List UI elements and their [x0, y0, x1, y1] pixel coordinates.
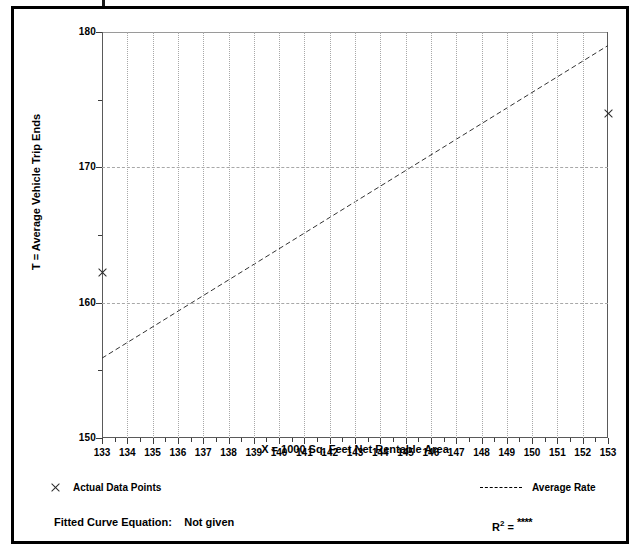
gridline-vertical: [254, 32, 255, 438]
x-axis-minor-tick: [140, 438, 141, 442]
y-axis-minor-tick: [98, 100, 102, 101]
x-axis-minor-tick: [266, 438, 267, 442]
legend-item-average-rate: Average Rate: [480, 482, 596, 493]
y-axis-minor-tick: [98, 370, 102, 371]
y-axis-tick: [96, 438, 102, 439]
x-axis-minor-tick: [595, 438, 596, 442]
gridline-vertical: [330, 32, 331, 438]
y-axis-minor-tick: [98, 235, 102, 236]
cross-marker-icon: [50, 482, 61, 493]
x-axis-minor-tick: [444, 438, 445, 442]
x-axis-minor-tick: [519, 438, 520, 442]
gridline-horizontal: [102, 303, 608, 304]
legend: Actual Data Points Average Rate: [14, 478, 626, 510]
r-squared-value: ****: [517, 516, 532, 528]
gridline-vertical: [127, 32, 128, 438]
x-axis-minor-tick: [165, 438, 166, 442]
data-point-marker: [603, 108, 614, 119]
gridline-vertical: [279, 32, 280, 438]
gridline-vertical: [431, 32, 432, 438]
plot-area: 1331341351361371381391401411421431441451…: [102, 32, 608, 438]
fitted-curve-equation: Fitted Curve Equation: Not given: [54, 516, 234, 528]
dashed-line-icon: [480, 487, 522, 488]
x-axis-minor-tick: [115, 438, 116, 442]
x-axis-minor-tick: [191, 438, 192, 442]
y-axis-tick-label: 170: [56, 162, 96, 172]
gridline-vertical: [229, 32, 230, 438]
r-squared-equals: =: [504, 521, 517, 533]
fitted-curve-equation-label: Fitted Curve Equation:: [54, 516, 172, 528]
footer-row: Fitted Curve Equation: Not given R2 = **…: [14, 514, 626, 540]
gridline-vertical: [203, 32, 204, 438]
legend-item-actual-data-points: Actual Data Points: [50, 482, 161, 493]
x-axis-tick: [608, 438, 609, 444]
x-axis-minor-tick: [469, 438, 470, 442]
x-axis-minor-tick: [241, 438, 242, 442]
gridline-horizontal: [102, 167, 608, 168]
gridline-vertical: [557, 32, 558, 438]
x-axis-minor-tick: [317, 438, 318, 442]
x-axis-minor-tick: [545, 438, 546, 442]
x-axis-minor-tick: [494, 438, 495, 442]
fitted-curve-equation-value: Not given: [184, 516, 234, 528]
gridline-vertical: [532, 32, 533, 438]
gridline-vertical: [304, 32, 305, 438]
y-axis-tick-label: 180: [56, 27, 96, 37]
data-point-marker: [97, 267, 108, 278]
x-axis-minor-tick: [570, 438, 571, 442]
gridline-vertical: [355, 32, 356, 438]
x-axis-minor-tick: [393, 438, 394, 442]
y-axis-tick: [96, 32, 102, 33]
gridline-vertical: [583, 32, 584, 438]
gridline-vertical: [178, 32, 179, 438]
x-axis-minor-tick: [368, 438, 369, 442]
legend-label-average-rate: Average Rate: [532, 482, 596, 493]
y-axis-tick: [96, 303, 102, 304]
gridline-vertical: [406, 32, 407, 438]
y-axis-tick: [96, 167, 102, 168]
y-axis-tick-label: 160: [56, 298, 96, 308]
r-squared: R2 = ****: [492, 516, 532, 533]
x-axis-minor-tick: [418, 438, 419, 442]
legend-label-actual-data-points: Actual Data Points: [73, 482, 161, 493]
gridline-vertical: [482, 32, 483, 438]
x-axis-minor-tick: [292, 438, 293, 442]
x-axis-minor-tick: [216, 438, 217, 442]
r-squared-label: R: [492, 521, 500, 533]
plot-canvas: [102, 32, 608, 438]
gridline-vertical: [380, 32, 381, 438]
gridline-vertical: [153, 32, 154, 438]
x-axis-minor-tick: [342, 438, 343, 442]
gridline-vertical: [507, 32, 508, 438]
chart-page: T = Average Vehicle Trip Ends 1331341351…: [0, 0, 640, 551]
y-axis-tick-label: 150: [56, 433, 96, 443]
y-axis-title: T = Average Vehicle Trip Ends: [30, 0, 42, 395]
gridline-vertical: [456, 32, 457, 438]
x-axis-title: X = 1000 Sq. Feet Net Rentable Area: [102, 443, 608, 455]
